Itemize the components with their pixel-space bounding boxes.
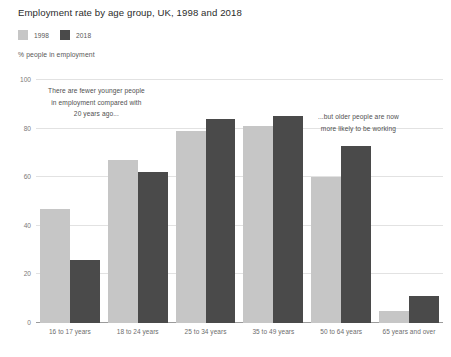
- y-tick-label-100: 100: [20, 76, 31, 83]
- chart-legend: 1998 2018: [18, 30, 91, 40]
- bar-2018-0[interactable]: [70, 260, 100, 323]
- annotation-left: There are fewer younger peoplein employm…: [48, 85, 145, 120]
- x-axis-label-5: 65 years and over: [375, 328, 443, 335]
- y-tick-label-60: 60: [24, 173, 31, 180]
- legend-item-2018[interactable]: 2018: [60, 30, 91, 40]
- annotation-left-line-1: in employment compared with: [48, 97, 145, 109]
- bar-2018-1[interactable]: [138, 172, 168, 323]
- bar-2018-5[interactable]: [409, 296, 439, 323]
- x-axis-label-4: 50 to 64 years: [307, 328, 375, 335]
- bar-1998-5[interactable]: [379, 311, 409, 323]
- annotation-right: ...but older people are nowmore likely t…: [318, 111, 399, 134]
- bar-group: [239, 80, 307, 323]
- bar-1998-0[interactable]: [40, 209, 70, 323]
- bar-2018-4[interactable]: [341, 146, 371, 323]
- bar-1998-2[interactable]: [176, 131, 206, 323]
- y-tick-label-0: 0: [27, 319, 31, 326]
- chart-title: Employment rate by age group, UK, 1998 a…: [18, 7, 242, 18]
- y-tick-label-20: 20: [24, 270, 31, 277]
- annotation-left-line-0: There are fewer younger people: [48, 85, 145, 97]
- y-tick-label-40: 40: [24, 221, 31, 228]
- x-axis-label-1: 18 to 24 years: [104, 328, 172, 335]
- x-axis-labels: 16 to 17 years18 to 24 years25 to 34 yea…: [36, 328, 443, 335]
- x-axis-label-2: 25 to 34 years: [172, 328, 240, 335]
- bar-1998-1[interactable]: [108, 160, 138, 323]
- annotation-left-line-2: 20 years ago...: [48, 108, 145, 120]
- legend-item-1998[interactable]: 1998: [18, 30, 49, 40]
- bar-1998-3[interactable]: [243, 126, 273, 323]
- legend-swatch-1998: [18, 30, 28, 40]
- legend-label-1998: 1998: [34, 32, 49, 39]
- y-axis-unit-label: % people in employment: [18, 51, 95, 58]
- x-axis-label-0: 16 to 17 years: [36, 328, 104, 335]
- x-axis-label-3: 35 to 49 years: [239, 328, 307, 335]
- legend-label-2018: 2018: [76, 32, 91, 39]
- bar-2018-2[interactable]: [206, 119, 236, 323]
- y-tick-label-80: 80: [24, 124, 31, 131]
- bar-group: [172, 80, 240, 323]
- annotation-right-line-1: more likely to be working: [318, 123, 399, 135]
- bar-2018-3[interactable]: [273, 116, 303, 323]
- annotation-right-line-0: ...but older people are now: [318, 111, 399, 123]
- bar-1998-4[interactable]: [311, 177, 341, 323]
- legend-swatch-2018: [60, 30, 70, 40]
